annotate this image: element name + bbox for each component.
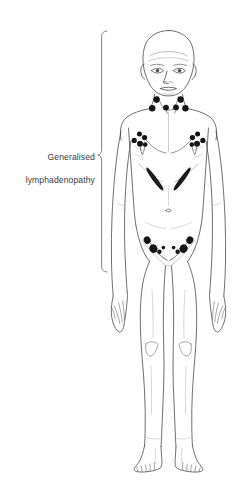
right-instep — [181, 448, 182, 463]
cervical-supraclavicular-nodes — [149, 96, 189, 113]
left-finger-3 — [123, 302, 125, 320]
mouth — [161, 87, 177, 90]
right-axillary-nodes — [190, 132, 206, 156]
right-knee-cap — [179, 342, 191, 356]
right-arm-outer — [216, 131, 226, 296]
left-arm-outer — [111, 131, 121, 296]
right-arm-inner — [206, 141, 212, 292]
node-stem — [170, 252, 181, 261]
node-stem — [143, 147, 145, 155]
right-finger-3 — [213, 302, 215, 320]
lymph-node-dot — [173, 105, 179, 111]
node-stem — [166, 110, 168, 113]
left-arm-inner — [125, 141, 131, 292]
annotation-bracket — [98, 31, 107, 272]
body-illustration-svg — [0, 0, 245, 490]
lymph-node-dot — [149, 105, 155, 111]
lymph-node-dot — [154, 96, 160, 103]
left-shin-hint — [151, 366, 152, 414]
bracket-spine — [98, 31, 107, 272]
node-stem — [192, 147, 194, 155]
left-finger-2 — [119, 303, 123, 322]
lymph-node-dot — [195, 132, 200, 137]
annotation-label-line-2: lymphadenopathy — [26, 175, 95, 185]
right-leg-inner — [172, 266, 177, 447]
lymph-node-dot — [172, 246, 176, 250]
hairline-shade — [149, 58, 189, 61]
right-thigh-hint — [184, 290, 185, 338]
right-finger-2 — [215, 303, 219, 322]
nostril-right — [169, 82, 173, 83]
lymph-node-dot — [190, 135, 195, 140]
groin-line — [164, 264, 173, 266]
left-leg-outer — [140, 262, 149, 447]
left-eyebrow — [151, 64, 164, 65]
right-finger-1 — [217, 306, 223, 324]
node-stem — [195, 147, 197, 155]
left-foot-outline — [134, 446, 162, 472]
left-axillary-nodes — [132, 132, 148, 156]
left-toe-3 — [145, 465, 146, 471]
lymph-node-dot — [178, 96, 184, 103]
anatomical-figure-diagram: Generalised lymphadenopathy — [0, 0, 245, 490]
lymph-node-dot — [132, 138, 137, 143]
left-ankle-line — [146, 437, 161, 439]
left-finger-1 — [114, 306, 120, 324]
left-elbow-crease — [117, 203, 125, 206]
left-toe-1 — [137, 467, 138, 472]
right-leg-outer — [188, 262, 197, 447]
annotation-label-generalised-lymphadenopathy: Generalised lymphadenopathy — [0, 140, 95, 186]
right-hypochondrium-shade — [174, 168, 191, 191]
left-thigh-hint — [152, 290, 153, 338]
lymph-node-dot — [190, 142, 195, 147]
left-instep — [155, 448, 156, 463]
lymph-node-dot — [182, 105, 188, 111]
right-toe-2 — [195, 466, 196, 472]
annotation-label-line-1: Generalised — [48, 152, 95, 162]
left-pupil — [156, 69, 159, 72]
lower-abdomen-crease-left — [145, 222, 166, 229]
lymph-node-dot — [194, 141, 200, 147]
left-hypochondrium-shade — [146, 168, 163, 191]
right-shin-hint — [185, 366, 186, 414]
lymph-node-dot — [163, 105, 169, 111]
right-eyebrow — [174, 64, 187, 65]
lymph-node-dot — [143, 142, 148, 147]
left-knee-cap — [146, 342, 158, 356]
left-leg-inner — [161, 266, 166, 447]
node-stem — [140, 147, 142, 155]
umbilicus — [166, 209, 171, 212]
body-outline-group — [111, 31, 225, 473]
right-ankle-line — [177, 437, 192, 439]
lymph-node-dot — [137, 141, 143, 147]
skull-outline — [143, 31, 194, 96]
cranial-suture — [150, 52, 187, 57]
lymph-node-dot — [162, 246, 166, 250]
right-toe-3 — [191, 465, 192, 471]
right-pupil — [178, 69, 181, 72]
node-stem — [156, 252, 167, 261]
left-toe-2 — [141, 466, 142, 472]
right-elbow-crease — [212, 203, 220, 206]
chin-crease — [163, 94, 174, 95]
left-thumb — [112, 308, 115, 319]
nostril-left — [163, 82, 167, 83]
right-toe-1 — [199, 467, 200, 472]
lymph-node-dot — [137, 132, 142, 137]
node-stem — [175, 110, 176, 113]
lymph-node-dot — [200, 138, 205, 143]
right-thumb — [222, 308, 225, 319]
right-foot-outline — [175, 446, 203, 472]
lymph-node-dot — [142, 135, 147, 140]
lower-abdomen-crease-right — [171, 222, 192, 229]
